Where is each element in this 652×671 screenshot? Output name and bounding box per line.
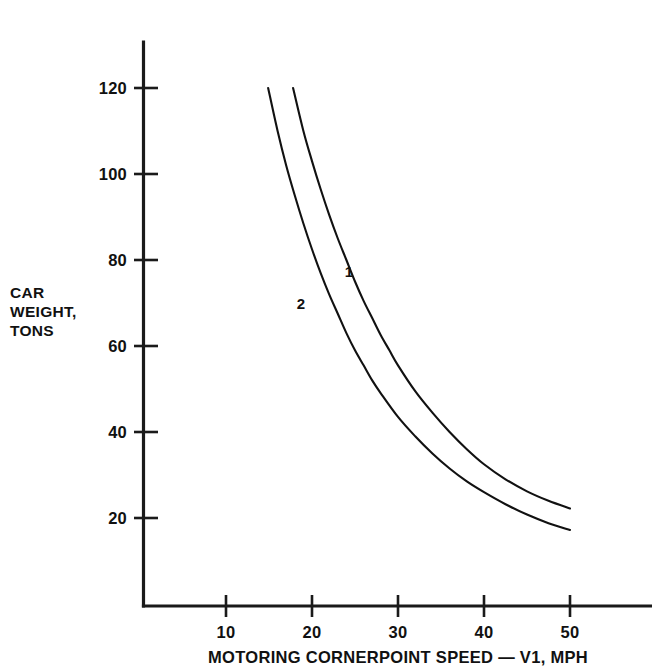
y-axis-ticks (134, 88, 158, 518)
x-tick-label-40: 40 (475, 623, 494, 641)
curve-labels: 1 2 (297, 263, 354, 312)
y-axis-title-line-1: CAR (10, 284, 44, 301)
curve-series-1 (293, 88, 570, 509)
y-axis-title-line-3: TONS (10, 322, 54, 339)
x-tick-label-10: 10 (217, 623, 236, 641)
y-tick-label-20: 20 (108, 509, 127, 527)
y-tick-label-80: 80 (108, 251, 127, 269)
curve-series-2 (268, 88, 570, 530)
curve-label-1: 1 (345, 263, 353, 280)
car-weight-vs-speed-chart: 120 100 80 60 40 20 10 20 30 40 50 (0, 0, 652, 671)
y-tick-label-100: 100 (99, 165, 127, 183)
y-tick-label-60: 60 (108, 337, 127, 355)
x-axis-title: MOTORING CORNERPOINT SPEED — V1, MPH (208, 648, 588, 666)
x-axis-tick-labels: 10 20 30 40 50 (217, 623, 580, 641)
chart-page: 120 100 80 60 40 20 10 20 30 40 50 (0, 0, 652, 671)
x-tick-label-50: 50 (561, 623, 580, 641)
data-curves (268, 88, 570, 530)
y-tick-label-120: 120 (99, 79, 127, 97)
x-tick-label-30: 30 (389, 623, 408, 641)
y-tick-label-40: 40 (108, 423, 127, 441)
curve-label-2: 2 (297, 295, 305, 312)
x-tick-label-20: 20 (303, 623, 322, 641)
y-axis-title: CAR WEIGHT, TONS (10, 284, 77, 339)
y-axis-tick-labels: 120 100 80 60 40 20 (99, 79, 127, 527)
y-axis-title-line-2: WEIGHT, (10, 303, 77, 320)
axes-group (144, 42, 652, 606)
